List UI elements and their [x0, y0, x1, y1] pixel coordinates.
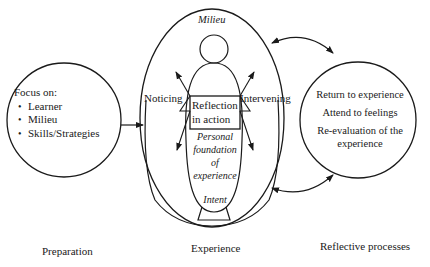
intervening-label: Intervening [240, 92, 291, 104]
bottom-double-arrow [272, 175, 333, 192]
focus-heading: Focus on: [14, 86, 100, 100]
preparation-focus-list: Focus on: Learner Milieu Skills/Strategi… [14, 86, 100, 140]
reflective-item-return: Return to experience [300, 88, 420, 101]
focus-item-milieu: Milieu [18, 113, 100, 127]
reflective-item-reevaluation: Re-evaluation of the experience [300, 124, 420, 150]
figure-head [200, 35, 228, 63]
pf-line-4: experience [187, 169, 243, 182]
reflection-line-2: in action [192, 112, 239, 126]
milieu-label: Milieu [198, 14, 225, 25]
intent-label: Intent [195, 193, 235, 206]
personal-foundation-label: Personal foundation of experience [187, 130, 243, 182]
reflection-in-action-label: Reflection in action [192, 98, 239, 126]
noticing-label: Noticing [144, 92, 183, 104]
caption-reflective: Reflective processes [320, 240, 410, 252]
reflective-processes-list: Return to experience Attend to feelings … [300, 88, 420, 155]
pf-line-2: foundation [187, 143, 243, 156]
reflection-line-1: Reflection [192, 98, 239, 112]
caption-preparation: Preparation [42, 245, 93, 257]
pf-line-1: Personal [187, 130, 243, 143]
top-double-arrow [272, 37, 333, 53]
reflective-item-feelings: Attend to feelings [300, 106, 420, 119]
pf-line-3: of [187, 156, 243, 169]
focus-item-learner: Learner [18, 100, 100, 114]
focus-item-skills: Skills/Strategies [18, 127, 100, 141]
caption-experience: Experience [191, 242, 240, 254]
